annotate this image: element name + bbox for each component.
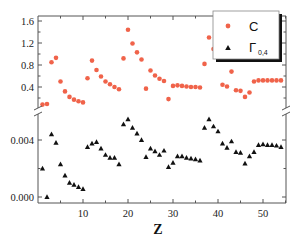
gamma-data-point [215,129,220,134]
c-data-point [238,89,243,94]
c-data-point [126,28,131,33]
gamma-data-point [94,139,99,144]
gamma-data-point [62,173,67,178]
c-data-point [229,69,234,74]
c-data-point [153,73,158,78]
gamma-data-point [224,145,229,150]
gamma-data-point [121,122,126,127]
x-axis-title: Z [153,222,162,237]
gamma-data-point [152,149,157,154]
c-data-point [274,78,279,83]
c-data-point [112,85,117,90]
c-data-point [76,99,81,104]
legend-c-marker [226,24,231,29]
legend-gamma-label: Γ [249,40,256,55]
c-data-point [63,89,68,94]
c-data-point [157,76,162,81]
gamma-data-point [184,155,189,160]
gamma-data-point [148,146,153,151]
gamma-data-point [107,155,112,160]
c-data-point [198,85,203,90]
c-data-point [108,82,113,87]
gamma-data-point [193,156,198,161]
c-data-point [94,68,99,73]
c-data-point [247,90,252,95]
gamma-data-point [269,142,274,147]
c-data-point [189,85,194,90]
c-data-point [90,58,95,63]
upper-y-tick-labels: 0.40.81.21.6 [21,16,35,93]
gamma-data-point [80,186,85,191]
c-data-point [99,74,104,79]
lower-y-tick-label: 0.004 [10,135,34,146]
legend-box [213,11,279,59]
c-data-point [139,57,144,62]
gamma-data-point [265,142,270,147]
c-data-point [225,84,230,89]
gamma-data-point [125,117,130,122]
legend: C Γ 0,4 [213,11,282,62]
x-tick-label: 30 [168,208,179,219]
gamma-data-point [67,180,72,185]
c-data-point [103,79,108,84]
c-data-point [207,35,212,40]
gamma-data-point [211,124,216,129]
gamma-data-point [206,117,211,122]
gamma-data-point [71,182,76,187]
c-data-point [193,85,198,90]
x-tick-label: 20 [123,208,134,219]
gamma-data-point [229,139,234,144]
c-data-point [144,86,149,91]
c-data-point [148,68,153,73]
c-data-point [202,62,207,67]
gamma-data-point [130,125,135,130]
c-data-point [49,60,54,65]
c-data-point [243,95,248,100]
x-tick-label: 50 [258,208,269,219]
gamma-data-point [143,154,148,159]
gamma-data-point [103,152,108,157]
c-data-point [117,87,122,92]
upper-y-tick-label: 1.6 [21,16,34,27]
legend-gamma-subscript: 0,4 [258,49,268,56]
c-data-point [162,79,167,84]
gamma-data-point [188,156,193,161]
c-data-point [85,76,90,81]
c-data-point [234,88,239,93]
gamma-data-point [166,164,171,169]
c-data-point [220,83,225,88]
c-data-point [171,84,176,89]
c-data-point [180,84,185,89]
upper-y-tick-label: 0.4 [21,82,35,93]
c-data-point [279,78,284,83]
gamma-data-point [175,154,180,159]
c-data-point [252,79,257,84]
c-data-point [184,84,189,89]
x-tick-label: 10 [78,208,89,219]
gamma-data-point [139,137,144,142]
gamma-data-point [40,166,45,171]
axis-break-marks [34,106,290,116]
c-data-point [265,78,270,83]
c-data-point [166,97,171,102]
gamma-data-point [49,132,54,137]
c-data-point [81,100,86,105]
gamma-data-point [89,141,94,146]
legend-c-label: C [249,19,258,34]
gamma-data-point [278,144,283,149]
c-data-point [270,78,275,83]
gamma-data-point [116,161,121,166]
gamma-data-point [233,149,238,154]
gamma-data-point [251,149,256,154]
gamma-data-point [112,155,117,160]
c-data-point [121,56,126,61]
lower-y-tick-label: 0.000 [10,192,34,203]
c-data-point [72,97,77,102]
gamma-data-point [53,140,58,145]
gamma-data-point [179,154,184,159]
gamma-data-point [220,141,225,146]
gamma-data-point [98,146,103,151]
gamma-data-point [157,152,162,157]
gamma-data-point [161,148,166,153]
x-tick-labels: 1020304050 [78,208,269,219]
